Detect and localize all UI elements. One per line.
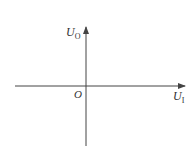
axes-diagram: UO O UI [0, 0, 196, 158]
y-axis-label: UO [66, 25, 81, 41]
y-axis-label-subscript: O [75, 32, 81, 41]
x-axis-label-subscript: I [182, 96, 185, 105]
origin-label: O [74, 88, 82, 100]
x-axis-label: UI [173, 89, 185, 105]
